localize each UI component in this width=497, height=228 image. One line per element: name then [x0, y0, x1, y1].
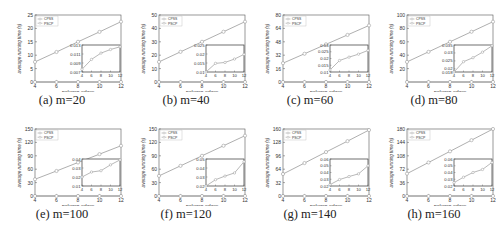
panel-caption: (a) m=20	[0, 93, 124, 108]
svg-text:PSCP: PSCP	[292, 136, 302, 140]
line-chart: 03264961281604681012polygon edgesaverage…	[248, 114, 372, 206]
svg-text:0.035: 0.035	[442, 43, 453, 48]
svg-text:average running time (s): average running time (s)	[389, 137, 394, 187]
svg-text:0.02: 0.02	[196, 52, 205, 57]
svg-text:6: 6	[427, 197, 430, 203]
svg-text:PSCP: PSCP	[168, 136, 178, 140]
svg-text:4: 4	[34, 83, 37, 89]
svg-text:6: 6	[55, 83, 58, 89]
svg-text:0.01: 0.01	[196, 70, 205, 75]
svg-text:0.02: 0.02	[444, 184, 453, 189]
svg-text:0.02: 0.02	[72, 175, 81, 180]
panel-caption: (d) m=80	[372, 93, 496, 108]
svg-text:4: 4	[34, 197, 37, 203]
svg-text:PSCP: PSCP	[44, 136, 54, 140]
svg-text:80: 80	[275, 12, 281, 18]
svg-text:average running time (s): average running time (s)	[265, 137, 270, 187]
svg-text:10: 10	[97, 197, 103, 203]
svg-text:60: 60	[151, 166, 157, 172]
svg-text:0.06: 0.06	[444, 157, 453, 162]
svg-text:0.02: 0.02	[320, 56, 329, 61]
svg-text:0.03: 0.03	[320, 177, 329, 182]
legend: CPSSPSCP	[284, 16, 306, 26]
svg-text:10: 10	[345, 197, 351, 203]
panel-caption: (e) m=100	[0, 207, 124, 222]
line-chart: 010203040504681012polygon edgesaverage r…	[124, 0, 248, 92]
svg-text:30: 30	[27, 180, 33, 186]
svg-text:12: 12	[490, 83, 496, 89]
svg-text:36: 36	[399, 180, 405, 186]
panel-caption: (f) m=120	[124, 207, 248, 222]
svg-text:32: 32	[275, 52, 281, 58]
svg-text:6: 6	[55, 197, 58, 203]
svg-text:polygon edges: polygon edges	[433, 89, 467, 92]
svg-text:PSCP: PSCP	[416, 22, 426, 26]
svg-text:0.03: 0.03	[196, 175, 205, 180]
svg-text:10: 10	[221, 83, 227, 89]
svg-text:average running time (s): average running time (s)	[17, 137, 22, 187]
svg-text:90: 90	[151, 153, 157, 159]
svg-text:4: 4	[282, 83, 285, 89]
svg-text:10: 10	[232, 73, 237, 78]
svg-text:10: 10	[480, 187, 485, 192]
svg-text:polygon edges: polygon edges	[185, 89, 219, 92]
svg-text:0.05: 0.05	[320, 163, 329, 168]
svg-text:64: 64	[275, 166, 281, 172]
legend: CPSSPSCP	[36, 16, 58, 26]
svg-text:60: 60	[27, 166, 33, 172]
svg-text:72: 72	[399, 166, 405, 172]
svg-text:20: 20	[399, 66, 405, 72]
svg-text:150: 150	[149, 126, 158, 132]
svg-text:100: 100	[397, 12, 406, 18]
chart-panel-a: 05101520254681012polygon edgesaverage ru…	[0, 0, 124, 114]
svg-text:12: 12	[242, 187, 247, 192]
svg-text:0.04: 0.04	[320, 170, 329, 175]
svg-text:12: 12	[118, 187, 123, 192]
line-chart: 036721081441804681012polygon edgesaverag…	[372, 114, 496, 206]
svg-text:128: 128	[273, 139, 282, 145]
svg-text:96: 96	[275, 153, 281, 159]
svg-text:30: 30	[151, 39, 157, 45]
legend: CPSSPSCP	[160, 16, 182, 26]
legend: CPSSPSCP	[284, 130, 306, 140]
svg-text:average running time (s): average running time (s)	[389, 23, 394, 73]
svg-text:0.05: 0.05	[196, 157, 205, 162]
svg-text:4: 4	[158, 83, 161, 89]
svg-text:average running time (s): average running time (s)	[141, 23, 146, 73]
panel-caption: (c) m=60	[248, 93, 372, 108]
svg-text:16: 16	[275, 66, 281, 72]
svg-text:32: 32	[275, 180, 281, 186]
svg-text:0.03: 0.03	[444, 177, 453, 182]
svg-text:64: 64	[275, 25, 281, 31]
svg-text:4: 4	[406, 197, 409, 203]
svg-text:0.013: 0.013	[70, 43, 81, 48]
svg-text:10: 10	[469, 83, 475, 89]
svg-text:10: 10	[232, 187, 237, 192]
svg-text:12: 12	[118, 73, 123, 78]
svg-text:20: 20	[151, 52, 157, 58]
line-chart: 204060801004681012polygon edgesaverage r…	[372, 0, 496, 92]
chart-panel-b: 010203040504681012polygon edgesaverage r…	[124, 0, 248, 114]
svg-text:average running time (s): average running time (s)	[141, 137, 146, 187]
svg-text:0.01: 0.01	[72, 184, 81, 189]
svg-text:5: 5	[30, 66, 33, 72]
svg-text:0.025: 0.025	[442, 58, 453, 63]
chart-panel-d: 204060801004681012polygon edgesaverage r…	[372, 0, 496, 114]
svg-text:0.011: 0.011	[70, 52, 81, 57]
svg-text:0.015: 0.015	[318, 63, 329, 68]
svg-text:20: 20	[27, 25, 33, 31]
line-chart: 016324864804681012polygon edgesaverage r…	[248, 0, 372, 92]
svg-text:10: 10	[108, 187, 113, 192]
svg-text:12: 12	[242, 73, 247, 78]
svg-text:4: 4	[158, 197, 161, 203]
svg-text:0.02: 0.02	[196, 184, 205, 189]
svg-text:0.01: 0.01	[320, 70, 329, 75]
svg-text:polygon edges: polygon edges	[185, 203, 219, 206]
chart-panel-c: 016324864804681012polygon edgesaverage r…	[248, 0, 372, 114]
svg-text:10: 10	[27, 52, 33, 58]
svg-text:polygon edges: polygon edges	[309, 203, 343, 206]
svg-text:120: 120	[149, 139, 158, 145]
svg-text:0.03: 0.03	[320, 43, 329, 48]
svg-text:10: 10	[480, 73, 485, 78]
svg-text:80: 80	[399, 25, 405, 31]
